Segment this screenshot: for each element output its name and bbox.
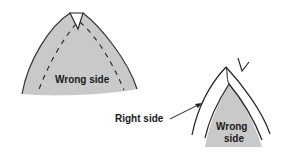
inner-wrong-label: Wrong xyxy=(216,121,247,132)
small-notch-triangle xyxy=(238,58,249,71)
left-cone-wrong-side: Wrong side xyxy=(22,13,137,95)
inner-side-label: side xyxy=(224,133,244,144)
right-side-label: Right side xyxy=(115,113,164,124)
right-cone: Right side Wrong side xyxy=(115,58,270,147)
sewing-diagram: Wrong side Right side Wrong side xyxy=(0,0,291,161)
left-wrong-side-label: Wrong side xyxy=(55,74,110,85)
pointer-arrow-line xyxy=(170,104,200,119)
